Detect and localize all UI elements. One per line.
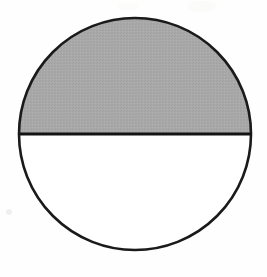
figure-canvas (0, 0, 267, 277)
circle-diagram (0, 0, 267, 277)
